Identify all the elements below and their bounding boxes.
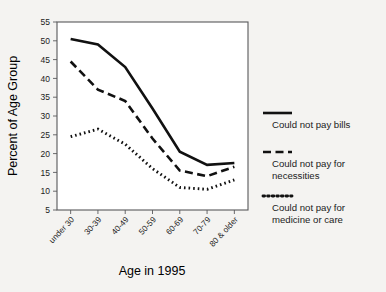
y-tick-label: 25 [41, 130, 51, 140]
legend-label-1-line2: necessities [272, 170, 320, 181]
legend-label-2: Could not pay for [272, 202, 346, 213]
plot-area-background [57, 22, 248, 210]
y-tick-label: 5 [45, 205, 50, 215]
y-tick-label: 30 [41, 111, 51, 121]
y-tick-label: 15 [41, 168, 51, 178]
line-chart: 510152025303540455055 under 3030-3940-49… [0, 0, 386, 292]
y-tick-label: 35 [41, 92, 51, 102]
y-tick-label: 10 [41, 186, 51, 196]
chart-container: 510152025303540455055 under 3030-3940-49… [0, 0, 386, 292]
y-axis-title: Percent of Age Group [6, 56, 20, 176]
legend-label-1: Could not pay for [272, 158, 346, 169]
y-tick-label: 55 [41, 17, 51, 27]
y-tick-label: 50 [41, 36, 51, 46]
y-tick-label: 40 [41, 74, 51, 84]
legend-label-0: Could not pay bills [272, 119, 351, 130]
legend-label-2-line2: medicine or care [272, 214, 343, 225]
y-tick-label: 45 [41, 55, 51, 65]
x-axis-title: Age in 1995 [119, 264, 186, 278]
y-tick-label: 20 [41, 149, 51, 159]
